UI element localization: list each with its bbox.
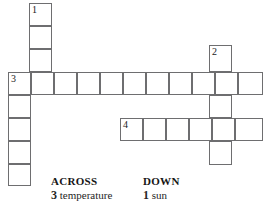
clue-across-item: 3 temperature — [51, 188, 112, 202]
clue-across-text: temperature — [60, 189, 113, 201]
clue-down-number: 1 — [143, 188, 149, 202]
clues-down-heading: DOWN — [143, 175, 180, 188]
clue-down-text: sun — [152, 189, 167, 201]
clues-down-column: DOWN 1 sun — [143, 175, 180, 202]
clues-across-column: ACROSS 3 temperature — [51, 175, 112, 202]
clue-across-number: 3 — [51, 188, 57, 202]
clue-list: ACROSS 3 temperature DOWN 1 sun — [0, 0, 273, 204]
clue-down-item: 1 sun — [143, 188, 180, 202]
clues-across-heading: ACROSS — [51, 175, 112, 188]
